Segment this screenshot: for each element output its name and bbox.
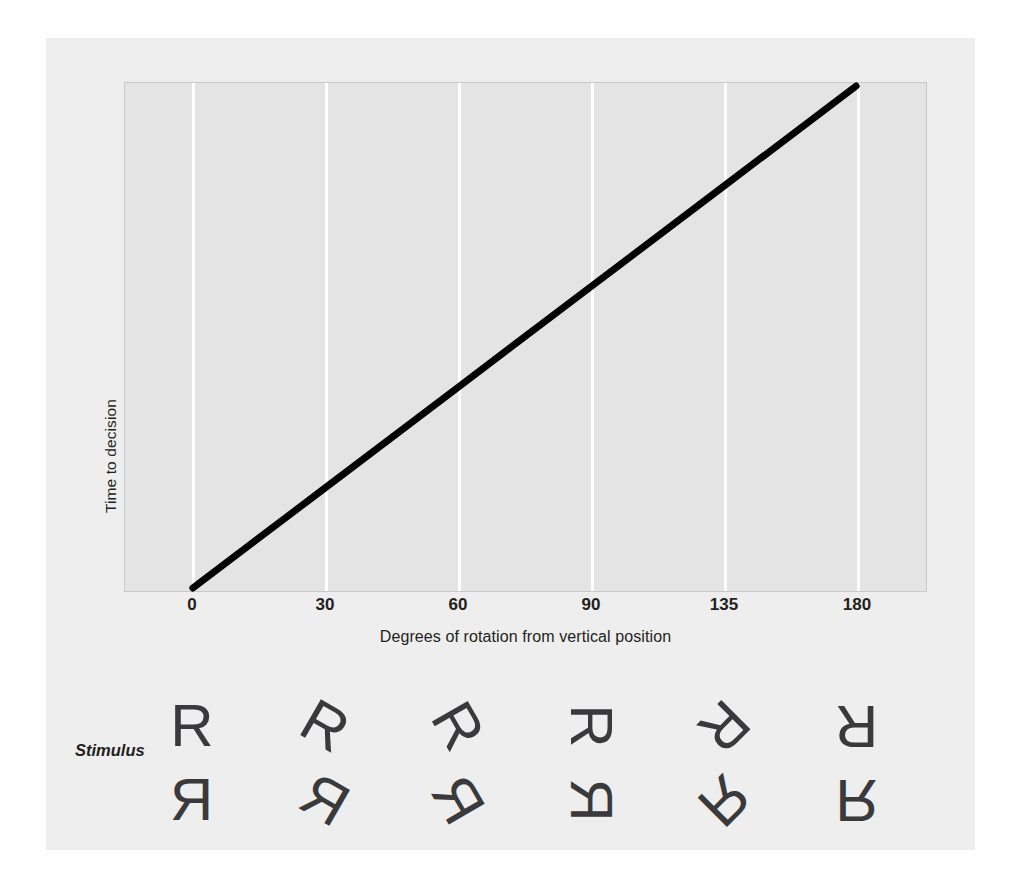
stimulus-glyph-mirrored-60: R: [398, 765, 518, 835]
stimulus-column-90: RR: [531, 683, 651, 848]
stimulus-glyph-normal-30: R: [265, 691, 385, 761]
stimulus-column-30: RR: [265, 683, 385, 848]
stimulus-glyph-mirrored-180: R: [797, 765, 917, 835]
trend-line: [193, 86, 856, 588]
x-tick-label-90: 90: [582, 595, 601, 615]
x-axis-label: Degrees of rotation from vertical positi…: [124, 628, 927, 646]
stimulus-glyph-normal-60: R: [398, 691, 518, 761]
x-tick-label-135: 135: [710, 595, 738, 615]
stimulus-column-180: RR: [797, 683, 917, 848]
stimulus-column-60: RR: [398, 683, 518, 848]
x-tick-label-0: 0: [187, 595, 196, 615]
stimulus-glyph-mirrored-90: R: [531, 765, 651, 835]
stimulus-glyph-normal-135: R: [664, 691, 784, 761]
stimulus-glyph-normal-90: R: [531, 691, 651, 761]
x-tick-label-180: 180: [843, 595, 871, 615]
x-tick-label-60: 60: [449, 595, 468, 615]
stimulus-glyph-mirrored-30: R: [265, 765, 385, 835]
stimulus-glyph-mirrored-0: R: [132, 765, 252, 835]
plot-area: [124, 82, 927, 592]
stimulus-column-0: RR: [132, 683, 252, 848]
stimulus-glyph-mirrored-135: R: [664, 765, 784, 835]
stimulus-glyph-normal-0: R: [132, 691, 252, 761]
x-tick-label-30: 30: [316, 595, 335, 615]
stimulus-column-135: RR: [664, 683, 784, 848]
stimulus-row: RRRRRRRRRRRR: [124, 683, 927, 848]
y-axis-label: Time to decision: [102, 213, 120, 513]
figure-panel: Time to decision 0306090135180 Degrees o…: [46, 38, 975, 850]
stimulus-glyph-normal-180: R: [797, 691, 917, 761]
x-axis-tick-labels: 0306090135180: [124, 595, 927, 619]
trend-line-svg: [125, 83, 926, 591]
